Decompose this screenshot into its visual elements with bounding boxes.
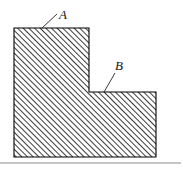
label-b: B bbox=[115, 58, 123, 73]
cross-section-diagram: A B bbox=[0, 0, 183, 172]
label-a: A bbox=[58, 7, 67, 22]
leader-line-a bbox=[42, 14, 57, 28]
leader-line-b bbox=[104, 73, 115, 92]
l-shaped-hatched-region bbox=[14, 28, 156, 157]
figure-canvas: A B bbox=[0, 0, 183, 172]
